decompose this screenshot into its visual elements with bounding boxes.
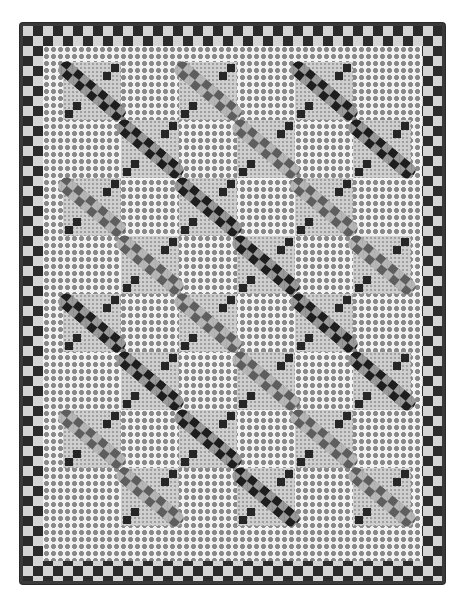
corner-square [277,130,285,138]
corner-square [277,362,285,370]
strip-block [353,236,411,294]
corner-square [189,218,197,226]
corner-square [161,362,169,370]
corner-square [239,284,247,292]
corner-square [393,246,401,254]
corner-square [393,362,401,370]
corner-square [227,64,235,72]
corner-square [65,226,73,234]
corner-square [65,458,73,466]
corner-square [181,342,189,350]
corner-square [355,168,363,176]
image-alt-text: Black-and-white photo of a patchwork qui… [20,23,21,24]
corner-square [161,478,169,486]
corner-square [305,334,313,342]
corner-square [297,110,305,118]
corner-square [169,122,177,130]
corner-square [73,450,81,458]
corner-square [285,354,293,362]
corner-square [355,516,363,524]
corner-square [285,470,293,478]
corner-square [363,508,371,516]
corner-square [123,168,131,176]
corner-square [297,226,305,234]
corner-square [181,110,189,118]
corner-square [131,508,139,516]
corner-square [189,334,197,342]
corner-square [401,470,409,478]
corner-square [103,420,111,428]
corner-square [103,188,111,196]
corner-square [393,478,401,486]
corner-square [239,400,247,408]
corner-square [65,110,73,118]
corner-square [65,342,73,350]
corner-square [277,246,285,254]
corner-square [103,304,111,312]
corner-square [219,188,227,196]
corner-square [103,72,111,80]
corner-square [111,180,119,188]
corner-square [73,102,81,110]
corner-square [343,296,351,304]
corner-square [363,160,371,168]
corner-square [343,412,351,420]
strip-block [63,178,121,236]
corner-square [297,342,305,350]
corner-square [401,122,409,130]
corner-square [355,284,363,292]
corner-square [131,160,139,168]
strip-block [121,468,179,526]
corner-square [247,160,255,168]
strip-block [179,294,237,352]
corner-square [123,516,131,524]
corner-square [297,458,305,466]
strip-block [295,178,353,236]
corner-square [111,296,119,304]
strip-block [295,294,353,352]
quilt-field [43,46,422,561]
corner-square [111,64,119,72]
corner-square [219,72,227,80]
strip-block [121,236,179,294]
strip-block [353,120,411,178]
corner-square [239,168,247,176]
corner-square [161,246,169,254]
strip-block [237,352,295,410]
corner-square [285,122,293,130]
corner-square [219,420,227,428]
corner-square [227,412,235,420]
corner-square [131,276,139,284]
corner-square [277,478,285,486]
corner-square [247,508,255,516]
corner-square [393,130,401,138]
corner-square [335,72,343,80]
corner-square [189,102,197,110]
corner-square [335,420,343,428]
corner-square [305,102,313,110]
corner-square [363,392,371,400]
strip-block [237,468,295,526]
corner-square [285,238,293,246]
strip-block [63,294,121,352]
corner-square [355,400,363,408]
corner-square [363,276,371,284]
corner-square [239,516,247,524]
corner-square [131,392,139,400]
corner-square [335,188,343,196]
strip-block [179,62,237,120]
corner-square [161,130,169,138]
strip-block [295,62,353,120]
corner-square [305,218,313,226]
corner-square [111,412,119,420]
strip-block [237,236,295,294]
strip-block [237,120,295,178]
corner-square [343,180,351,188]
corner-square [401,238,409,246]
strip-block [295,410,353,468]
strip-block [179,178,237,236]
corner-square [189,450,197,458]
strip-block [121,120,179,178]
corner-square [181,226,189,234]
corner-square [247,276,255,284]
